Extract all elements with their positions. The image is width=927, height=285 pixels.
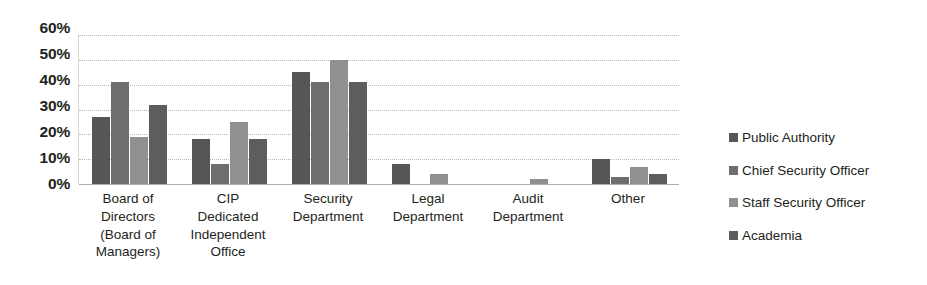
bar-slot: [230, 35, 248, 184]
bar[interactable]: [211, 164, 229, 184]
bar-slot: [449, 35, 467, 184]
legend-label: Staff Security Officer: [742, 196, 865, 210]
x-axis-label-line: Board of: [79, 190, 177, 208]
legend-swatch-icon: [729, 231, 738, 240]
legend-swatch-icon: [729, 166, 738, 175]
bar[interactable]: [311, 82, 329, 184]
x-axis-label-line: Managers): [79, 243, 177, 261]
y-axis-tick-label: 30%: [8, 98, 70, 114]
bar-slot: [349, 35, 367, 184]
bar-slot: [111, 35, 129, 184]
x-axis-label-line: Department: [279, 208, 377, 226]
bar-group: [179, 35, 279, 184]
bar-slot: [630, 35, 648, 184]
bar[interactable]: [530, 179, 548, 184]
x-axis-label-line: Department: [479, 208, 577, 226]
legend-item[interactable]: Chief Security Officer: [729, 164, 925, 178]
bar-slot: [130, 35, 148, 184]
legend-item[interactable]: Public Authority: [729, 131, 925, 145]
bar[interactable]: [349, 82, 367, 184]
x-axis-category-label: CIPDedicatedIndependentOffice: [178, 190, 278, 261]
bar-slot: [330, 35, 348, 184]
bar-slot: [649, 35, 667, 184]
legend-swatch-icon: [729, 133, 738, 142]
bar-group: [479, 35, 579, 184]
bar[interactable]: [330, 60, 348, 184]
bar[interactable]: [392, 164, 410, 184]
bar-chart: 60%50%40%30%20%10%0% Board ofDirectors(B…: [0, 0, 927, 285]
bar-group: [379, 35, 479, 184]
bar-slot: [430, 35, 448, 184]
bar-slot: [149, 35, 167, 184]
plot-wrapper: 60%50%40%30%20%10%0% Board ofDirectors(B…: [0, 0, 700, 285]
bar[interactable]: [249, 139, 267, 184]
bar-slot: [411, 35, 429, 184]
legend-label: Chief Security Officer: [742, 164, 869, 178]
x-axis-category-label: Other: [578, 190, 678, 261]
x-axis-label-line: Legal: [379, 190, 477, 208]
bar-group: [279, 35, 379, 184]
y-axis-tick-label: 40%: [8, 72, 70, 88]
bar-slot: [511, 35, 529, 184]
bar[interactable]: [192, 139, 210, 184]
legend-swatch-icon: [729, 198, 738, 207]
legend-label: Academia: [742, 229, 802, 243]
y-axis-tick-label: 0%: [8, 176, 70, 192]
bar-slot: [249, 35, 267, 184]
x-axis-label-line: Security: [279, 190, 377, 208]
plot-area: [78, 35, 679, 184]
bar[interactable]: [292, 72, 310, 184]
bar-slot: [492, 35, 510, 184]
chart-legend: Public AuthorityChief Security OfficerSt…: [729, 131, 925, 261]
y-axis-tick-label: 50%: [8, 46, 70, 62]
bar[interactable]: [111, 82, 129, 184]
bar-slot: [392, 35, 410, 184]
y-axis-tick-label: 60%: [8, 20, 70, 36]
bar[interactable]: [630, 167, 648, 184]
bar-group: [79, 35, 179, 184]
bar-slot: [292, 35, 310, 184]
bar[interactable]: [649, 174, 667, 184]
y-axis: 60%50%40%30%20%10%0%: [8, 28, 70, 184]
x-axis-label-line: Directors: [79, 208, 177, 226]
y-axis-tick-label: 10%: [8, 150, 70, 166]
x-axis-label-line: Independent: [179, 226, 277, 244]
bar[interactable]: [230, 122, 248, 184]
bar[interactable]: [130, 137, 148, 184]
bar[interactable]: [149, 105, 167, 184]
legend-item[interactable]: Staff Security Officer: [729, 196, 925, 210]
y-axis-tick-label: 20%: [8, 124, 70, 140]
bar[interactable]: [592, 159, 610, 184]
axis-baseline: [79, 184, 679, 185]
bar-slot: [530, 35, 548, 184]
bar-slot: [311, 35, 329, 184]
x-axis-category-label: LegalDepartment: [378, 190, 478, 261]
bar[interactable]: [430, 174, 448, 184]
x-axis-label-line: (Board of: [79, 226, 177, 244]
x-axis-label-line: Audit: [479, 190, 577, 208]
x-axis-label-line: CIP: [179, 190, 277, 208]
bar-slot: [611, 35, 629, 184]
x-axis-category-label: AuditDepartment: [478, 190, 578, 261]
legend-item[interactable]: Academia: [729, 229, 925, 243]
x-axis-category-label: Board ofDirectors(Board ofManagers): [78, 190, 178, 261]
bar[interactable]: [92, 117, 110, 184]
bar-group: [579, 35, 679, 184]
bar-slot: [92, 35, 110, 184]
x-axis-labels: Board ofDirectors(Board ofManagers)CIPDe…: [78, 190, 678, 261]
x-axis-category-label: SecurityDepartment: [278, 190, 378, 261]
bar-slot: [549, 35, 567, 184]
bar-slot: [592, 35, 610, 184]
legend-label: Public Authority: [742, 131, 835, 145]
bar-slot: [211, 35, 229, 184]
x-axis-label-line: Office: [179, 243, 277, 261]
bar[interactable]: [611, 177, 629, 184]
x-axis-label-line: Other: [579, 190, 677, 208]
x-axis-label-line: Dedicated: [179, 208, 277, 226]
bar-slot: [192, 35, 210, 184]
x-axis-label-line: Department: [379, 208, 477, 226]
bar-groups: [79, 35, 679, 184]
